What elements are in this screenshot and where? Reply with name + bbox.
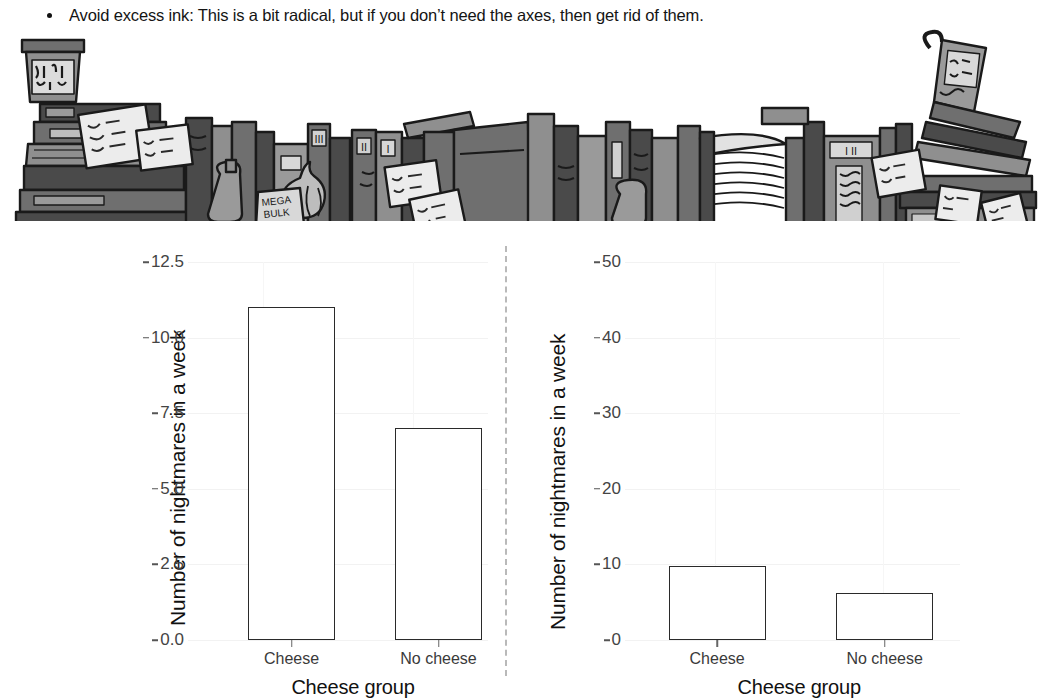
- left-panel-bar-chart: Number of nightmares in a week 12.5 10.0…: [60, 240, 505, 694]
- gridline: [625, 413, 960, 414]
- x-tick-label-cheese: Cheese: [264, 650, 319, 668]
- right-y-axis-title: Number of nightmares in a week: [546, 334, 570, 630]
- svg-text:II: II: [361, 141, 367, 153]
- svg-text:III: III: [314, 133, 323, 145]
- y-tick-mark: [143, 337, 149, 339]
- gridline: [188, 262, 488, 263]
- gridline: [188, 338, 488, 339]
- y-tick-mark: [152, 412, 158, 414]
- y-tick-label: 0.0: [160, 630, 188, 650]
- gridline: [625, 338, 960, 339]
- bar-cheese: [248, 307, 335, 640]
- x-tick-label-no-cheese: No cheese: [846, 650, 923, 668]
- y-tick-mark: [594, 564, 600, 566]
- y-tick-mark: [594, 412, 600, 414]
- bookshelf-doodle-illustration: III MEGA BULK II I: [0, 26, 1044, 221]
- y-tick-label: 7.5: [160, 403, 188, 423]
- y-tick-label: 10.0: [151, 328, 188, 348]
- gridline: [625, 640, 960, 641]
- right-panel-bar-chart: Number of nightmares in a week 50 40 30 …: [520, 240, 1000, 694]
- y-tick-label: 5.0: [160, 479, 188, 499]
- y-tick-mark: [604, 639, 610, 641]
- svg-text:I: I: [386, 143, 389, 155]
- y-tick-label: 0: [612, 630, 625, 650]
- y-tick-mark: [594, 261, 600, 263]
- y-tick-label: 12.5: [151, 252, 188, 272]
- x-tick-label-no-cheese: No cheese: [400, 650, 477, 668]
- y-tick-mark: [152, 639, 158, 641]
- bullet-text: Avoid excess ink: This is a bit radical,…: [69, 6, 704, 25]
- right-x-axis-title: Cheese group: [738, 676, 861, 699]
- y-tick-mark: [594, 337, 600, 339]
- vertical-gridline: [883, 262, 884, 640]
- left-x-axis-title: Cheese group: [291, 676, 414, 699]
- right-plot-area: 50 40 30 20 10 0 Cheese No cheese Cheese…: [625, 262, 960, 640]
- y-tick-mark: [143, 261, 149, 263]
- left-plot-area: 12.5 10.0 7.5 5.0 2.5 0.0 Cheese No chee…: [188, 262, 488, 640]
- charts-region: Number of nightmares in a week 12.5 10.0…: [0, 240, 1044, 694]
- gridline: [188, 640, 488, 641]
- x-tick-mark: [884, 640, 886, 647]
- y-tick-label: 20: [602, 479, 625, 499]
- gridline: [625, 262, 960, 263]
- bar-cheese: [669, 566, 766, 640]
- bar-no-cheese: [836, 593, 933, 640]
- x-tick-mark: [438, 640, 440, 647]
- x-tick-mark: [291, 640, 293, 647]
- gridline: [625, 489, 960, 490]
- y-tick-mark: [152, 564, 158, 566]
- y-tick-label: 2.5: [160, 554, 188, 574]
- y-tick-label: 30: [602, 403, 625, 423]
- y-tick-label: 40: [602, 328, 625, 348]
- bar-no-cheese: [395, 428, 482, 640]
- svg-text:I II: I II: [845, 145, 857, 157]
- panel-divider: [505, 246, 507, 676]
- y-tick-label: 50: [602, 252, 625, 272]
- gridline: [188, 413, 488, 414]
- y-tick-mark: [594, 488, 600, 490]
- y-tick-mark: [152, 488, 158, 490]
- bullet-point-icon: [47, 13, 52, 18]
- x-tick-label-cheese: Cheese: [690, 650, 745, 668]
- x-tick-mark: [716, 640, 718, 647]
- y-tick-label: 10: [602, 554, 625, 574]
- gridline: [625, 564, 960, 565]
